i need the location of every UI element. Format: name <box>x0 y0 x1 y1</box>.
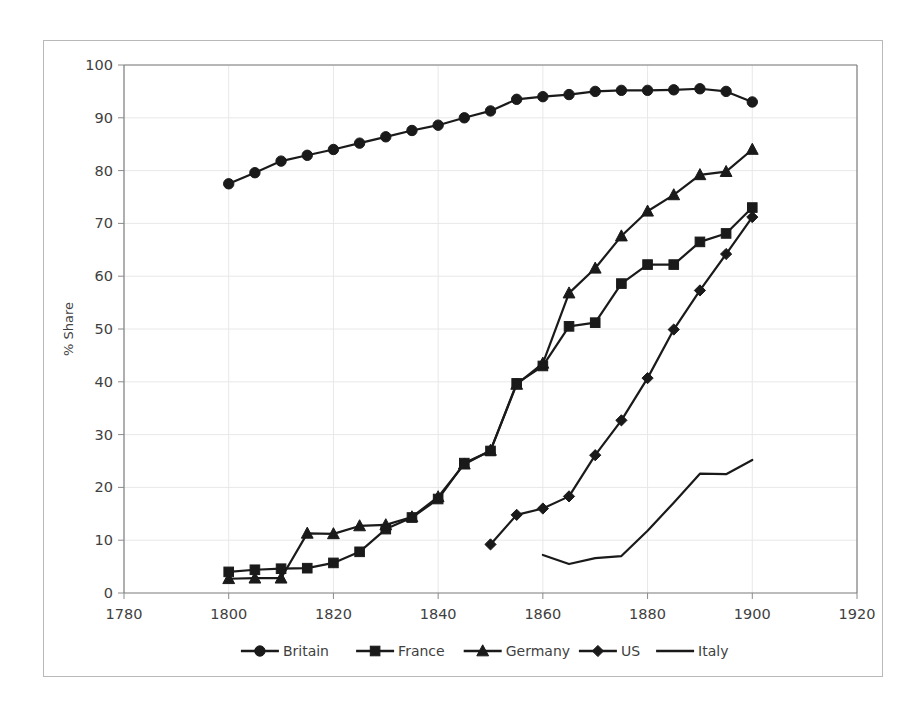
legend-label-germany: Germany <box>506 643 570 659</box>
data-point-britain <box>433 120 443 130</box>
legend-item-us: US <box>579 643 640 659</box>
legend-item-france: France <box>356 643 445 659</box>
data-point-britain <box>485 106 495 116</box>
figure-root: 0102030405060708090100178018001820184018… <box>0 0 921 710</box>
y-axis-label-group: % Share <box>61 302 76 356</box>
y-tick-label: 10 <box>95 532 113 548</box>
y-tick-label: 70 <box>95 215 113 231</box>
data-point-us <box>563 491 574 502</box>
data-point-france <box>643 260 653 270</box>
series-us <box>485 211 758 550</box>
data-point-britain <box>407 125 417 135</box>
x-tick-label: 1800 <box>210 606 247 622</box>
data-point-france <box>564 322 574 332</box>
series-france <box>224 203 757 577</box>
y-tick-label: 0 <box>104 585 113 601</box>
tick-labels-group: 0102030405060708090100178018001820184018… <box>85 57 875 622</box>
legend-marker-france <box>370 646 380 656</box>
x-tick-label: 1920 <box>839 606 876 622</box>
y-tick-label: 100 <box>85 57 113 73</box>
data-point-britain <box>511 94 521 104</box>
line-chart: 0102030405060708090100178018001820184018… <box>0 0 921 710</box>
legend-label-britain: Britain <box>283 643 329 659</box>
y-tick-label: 60 <box>95 268 113 284</box>
y-tick-label: 30 <box>95 427 113 443</box>
series-group <box>223 84 758 584</box>
data-point-us <box>537 503 548 514</box>
data-point-britain <box>669 85 679 95</box>
data-point-britain <box>224 179 234 189</box>
data-point-britain <box>747 97 757 107</box>
data-point-britain <box>642 85 652 95</box>
series-britain <box>224 84 758 189</box>
legend-marker-us <box>592 645 603 656</box>
legend-label-us: US <box>621 643 640 659</box>
data-point-britain <box>354 138 364 148</box>
data-point-britain <box>616 85 626 95</box>
data-point-germany <box>642 205 654 216</box>
legend-label-france: France <box>398 643 445 659</box>
data-point-france <box>329 558 339 568</box>
x-tick-label: 1880 <box>629 606 666 622</box>
y-tick-label: 40 <box>95 374 113 390</box>
data-point-france <box>669 260 679 270</box>
y-tick-label: 90 <box>95 110 113 126</box>
data-point-france <box>355 547 365 557</box>
x-tick-label: 1820 <box>315 606 352 622</box>
data-point-britain <box>302 150 312 160</box>
data-point-britain <box>328 144 338 154</box>
series-line-germany <box>229 149 753 578</box>
data-point-britain <box>459 113 469 123</box>
series-line-us <box>491 217 753 544</box>
data-point-france <box>590 318 600 328</box>
x-tick-label: 1780 <box>106 606 143 622</box>
data-point-britain <box>381 132 391 142</box>
legend-group: BritainFranceGermanyUSItaly <box>241 643 729 659</box>
series-line-britain <box>229 89 753 184</box>
gridlines-group <box>124 65 857 593</box>
series-germany <box>223 143 758 583</box>
data-point-france <box>695 237 705 247</box>
x-tick-label: 1840 <box>420 606 457 622</box>
data-point-france <box>721 229 731 239</box>
data-point-britain <box>276 156 286 166</box>
data-point-britain <box>695 84 705 94</box>
legend-label-italy: Italy <box>698 643 728 659</box>
data-point-britain <box>564 89 574 99</box>
y-axis-title: % Share <box>61 302 76 356</box>
x-tick-label: 1860 <box>524 606 561 622</box>
data-point-britain <box>250 168 260 178</box>
data-point-britain <box>590 86 600 96</box>
legend-item-italy: Italy <box>656 643 728 659</box>
x-tick-label: 1900 <box>734 606 771 622</box>
data-point-france <box>302 563 312 573</box>
legend-item-germany: Germany <box>464 643 570 659</box>
data-point-britain <box>721 86 731 96</box>
legend-marker-britain <box>255 646 265 656</box>
data-point-france <box>617 279 627 289</box>
data-point-britain <box>538 91 548 101</box>
y-tick-label: 80 <box>95 163 113 179</box>
y-tick-label: 50 <box>95 321 113 337</box>
data-point-germany <box>746 143 758 154</box>
y-tick-label: 20 <box>95 479 113 495</box>
legend-item-britain: Britain <box>241 643 329 659</box>
